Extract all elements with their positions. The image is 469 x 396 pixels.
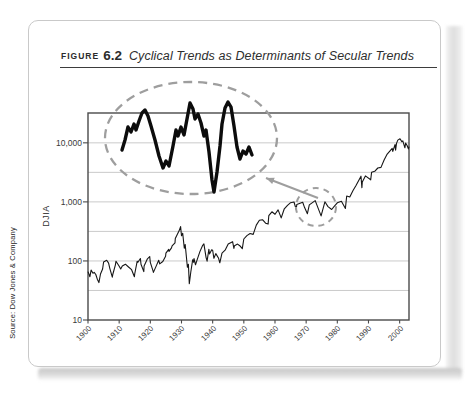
y-tick-label-1000: 1,000 [40, 197, 82, 207]
magnifier-ellipse [105, 82, 277, 194]
book-page: { "figure": { "label": "FIGURE", "number… [0, 0, 469, 396]
y-tick-label-100: 100 [40, 256, 82, 266]
y-tick-label-10000: 10,000 [40, 138, 82, 148]
plot-border [88, 113, 409, 320]
callout-arrowhead [266, 178, 275, 184]
callout-arrow-shaft [266, 178, 318, 198]
djia-line [88, 139, 409, 284]
inset-cyclical-line [122, 102, 252, 192]
highlight-ellipse [296, 188, 336, 226]
y-tick-label-10: 10 [40, 315, 82, 325]
